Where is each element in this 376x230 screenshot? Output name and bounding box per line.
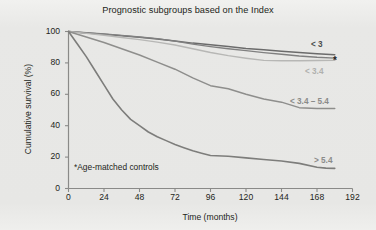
series-label-0: < 3: [311, 40, 323, 49]
footnote-age-matched-controls: *Age-matched controls: [74, 162, 159, 172]
series-label-2: < 3.4: [305, 67, 323, 76]
series-label-1: *: [333, 55, 337, 66]
prognostic-survival-figure: Prognostic subgroups based on the Index …: [0, 0, 376, 230]
series-inline-labels: < 3*< 3.4< 3.4 – 5.4> 5.4: [0, 0, 376, 230]
series-label-3: < 3.4 – 5.4: [290, 97, 329, 106]
series-label-4: > 5.4: [314, 156, 332, 165]
